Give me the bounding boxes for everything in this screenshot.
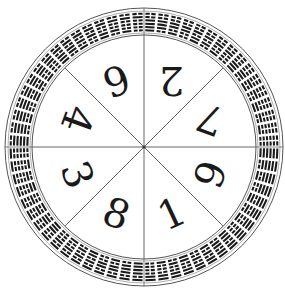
hexagram-cell [259, 122, 277, 134]
hexagram-cell [145, 263, 155, 280]
hexagram-cell [107, 259, 120, 277]
hexagram-cell [119, 262, 131, 280]
hexagram-cell [21, 85, 40, 101]
hexagram-cell [256, 171, 274, 184]
hexagram-cell [168, 17, 181, 35]
hexagram-cell [14, 110, 32, 123]
hexagram-cell [190, 250, 206, 269]
hexagram-cell [260, 135, 277, 145]
hexagram-cell [247, 85, 266, 101]
hexagram-cell [82, 250, 98, 269]
hexagram-cell [259, 160, 277, 172]
hexagram-cell [157, 262, 169, 280]
hexagram-cell [256, 110, 274, 123]
hexagram-cell [119, 14, 131, 32]
bagua-wheel-diagram: 2 7 9 1 8 3 4 6 [0, 0, 285, 294]
hexagram-cell [132, 14, 142, 31]
hexagram-cell [14, 171, 32, 184]
hexagram-cell [132, 263, 142, 280]
hexagram-cell [145, 14, 155, 31]
hexagram-cell [260, 148, 277, 158]
hexagram-cell [82, 24, 98, 43]
hexagram-cell [157, 14, 169, 32]
hexagram-cell [11, 122, 29, 134]
hexagram-cell [168, 259, 181, 277]
hexagram-cell [11, 148, 28, 158]
hexagram-cell [21, 193, 40, 209]
center-point [142, 145, 145, 148]
hexagram-cell [190, 24, 206, 43]
hexagram-cell [107, 17, 120, 35]
hexagram-cell [11, 160, 29, 172]
sector-digit-top-right-upper: 2 [159, 58, 184, 104]
hexagram-cell [11, 135, 28, 145]
hexagram-cell [247, 193, 266, 209]
